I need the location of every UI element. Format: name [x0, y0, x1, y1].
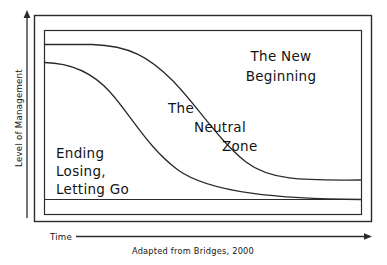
arrow-right-icon: [364, 233, 372, 240]
zone-neutral-line-1: The: [167, 100, 194, 116]
zone-label-neutral: The Neutral Zone: [167, 100, 258, 154]
zone-label-new-beginning: The New Beginning: [246, 48, 317, 84]
zone-ending-line-1: Ending: [56, 145, 104, 161]
zone-neutral-line-3: Zone: [222, 138, 258, 154]
zone-ending-line-2: Losing,: [56, 163, 106, 179]
y-axis-group: [24, 10, 31, 218]
zone-label-ending: Ending Losing, Letting Go: [56, 145, 129, 197]
transition-model-figure: Level of Management Time Adapted from Br…: [0, 0, 387, 265]
x-axis-label: Time: [49, 232, 72, 242]
figure-caption: Adapted from Bridges, 2000: [132, 246, 254, 256]
arrow-up-icon: [24, 10, 31, 18]
zone-neutral-line-2: Neutral: [194, 119, 246, 135]
zone-ending-line-3: Letting Go: [56, 181, 129, 197]
zone-new-beginning-line-2: Beginning: [246, 68, 317, 84]
y-axis-label: Level of Management: [14, 69, 24, 167]
diagram-canvas: Level of Management Time Adapted from Br…: [0, 0, 387, 265]
zone-new-beginning-line-1: The New: [250, 48, 312, 64]
x-axis-group: [76, 233, 372, 240]
